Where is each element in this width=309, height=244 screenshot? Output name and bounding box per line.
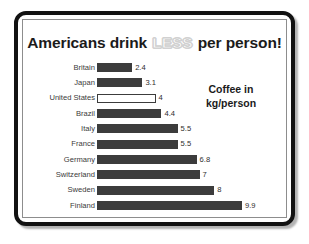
chart-title-prefix: Americans drink — [27, 34, 147, 51]
bar-value-label: 9.9 — [245, 202, 256, 210]
bar-row: Switzerland7 — [23, 167, 286, 182]
bar — [97, 140, 178, 149]
bar — [97, 201, 242, 210]
bar-row: France5.5 — [23, 136, 286, 151]
bar-value-label: 7 — [203, 171, 207, 179]
bar-value-label: 3.1 — [145, 79, 156, 87]
bar-value-label: 5.5 — [181, 140, 192, 148]
bar-category-label: Sweden — [23, 186, 95, 194]
caption-line-2: kg/person — [190, 96, 272, 110]
chart-title-suffix: per person! — [198, 34, 282, 51]
bar-row: Sweden8 — [23, 182, 286, 197]
bar — [97, 63, 132, 72]
bar-row: Finland9.9 — [23, 198, 286, 213]
bar-track: 5.5 — [97, 121, 282, 136]
bar-track: 5.5 — [97, 136, 282, 151]
chart-outer-frame: Americans drink LESS per person! Britain… — [14, 11, 295, 226]
bar-value-label: 4 — [159, 94, 163, 102]
bar-highlighted — [97, 94, 156, 103]
bar-track: 6.8 — [97, 152, 282, 167]
bar-category-label: Japan — [23, 79, 95, 87]
bar-category-label: Brazil — [23, 110, 95, 118]
bar-value-label: 5.5 — [181, 125, 192, 133]
bar — [97, 78, 142, 87]
bar-value-label: 4.4 — [164, 110, 175, 118]
chart-canvas: Americans drink LESS per person! Britain… — [0, 0, 309, 244]
chart-inner-frame: Americans drink LESS per person! Britain… — [22, 19, 287, 218]
chart-title: Americans drink LESS per person! — [23, 34, 286, 52]
bar-row: Italy5.5 — [23, 121, 286, 136]
bar-track: 7 — [97, 167, 282, 182]
bar-category-label: Switzerland — [23, 171, 95, 179]
bar-value-label: 8 — [217, 186, 221, 194]
bar-value-label: 6.8 — [200, 156, 211, 164]
bar-row: Germany6.8 — [23, 152, 286, 167]
bar-category-label: Germany — [23, 156, 95, 164]
bar — [97, 186, 214, 195]
bar — [97, 124, 178, 133]
bar-track: 2.4 — [97, 60, 282, 75]
bar-category-label: Britain — [23, 64, 95, 72]
bar-row: Britain2.4 — [23, 60, 286, 75]
caption-line-1: Coffee in — [190, 82, 272, 96]
bar-category-label: France — [23, 140, 95, 148]
bar-category-label: Italy — [23, 125, 95, 133]
bar-category-label: Finland — [23, 202, 95, 210]
bar-track: 9.9 — [97, 198, 282, 213]
bar — [97, 155, 197, 164]
bar — [97, 109, 161, 118]
chart-title-emphasis: LESS — [152, 34, 192, 51]
chart-axis-caption: Coffee in kg/person — [190, 82, 272, 110]
bar-value-label: 2.4 — [135, 64, 146, 72]
bar-track: 8 — [97, 182, 282, 197]
bar — [97, 170, 200, 179]
bar-category-label: United States — [23, 94, 95, 102]
